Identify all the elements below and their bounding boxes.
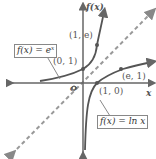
origin-label: O [70,84,77,92]
x-axis-label: x [146,89,151,98]
point-1-0: (1, 0) [99,87,123,96]
point-e-1: (e, 1) [122,72,146,81]
ln-label-box: f(x) = ln x [97,115,148,129]
exp-label-box: f(x) = eˣ [14,44,57,58]
point-0-1: (0, 1) [53,57,77,66]
y-axis-label: f(x) [86,3,104,12]
point-1-e: (1, e) [69,31,93,40]
